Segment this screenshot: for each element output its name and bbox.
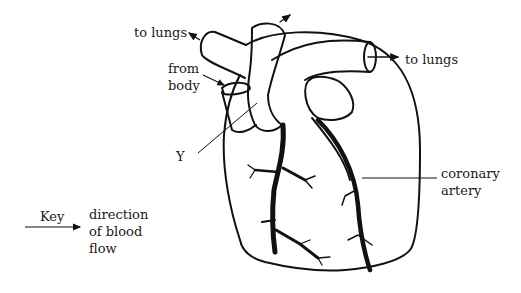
coronary-artery-right bbox=[318, 120, 370, 270]
left-auricle bbox=[305, 77, 353, 120]
heart-outline bbox=[224, 32, 420, 270]
heart-drawing bbox=[0, 0, 521, 293]
label-y: Y bbox=[176, 148, 185, 165]
label-from-body: from body bbox=[168, 60, 200, 94]
label-to-lungs-left: to lungs bbox=[134, 24, 187, 41]
aorta-arch bbox=[248, 24, 285, 132]
pulmonary-artery-left bbox=[201, 32, 246, 78]
from-body-pointer bbox=[203, 75, 224, 85]
heart-diagram: to lungs from body to lungs Y coronary a… bbox=[0, 0, 521, 293]
key-description: direction of blood flow bbox=[89, 206, 148, 257]
label-coronary-artery: coronary artery bbox=[441, 165, 500, 199]
to-lungs-arrow-left bbox=[189, 33, 200, 40]
pulmonary-artery-right bbox=[272, 41, 376, 80]
key-title: Key bbox=[40, 208, 64, 225]
label-to-lungs-right: to lungs bbox=[405, 51, 458, 68]
